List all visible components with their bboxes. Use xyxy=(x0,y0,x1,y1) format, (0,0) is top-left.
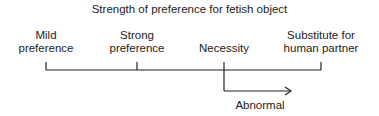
scale-lines xyxy=(0,0,379,116)
abnormal-label: Abnormal xyxy=(230,99,290,112)
